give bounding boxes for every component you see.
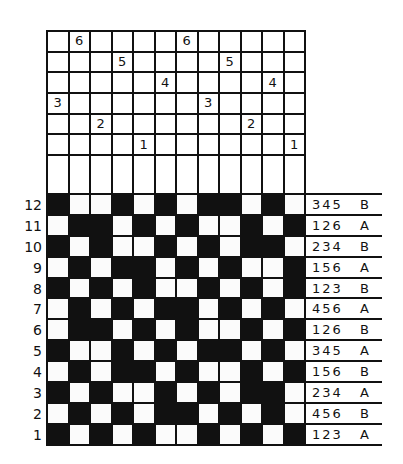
- weave-cell-black: [70, 362, 92, 383]
- weave-cell-black: [134, 258, 156, 279]
- weave-cell-white: [113, 320, 135, 341]
- weave-cell-white: [263, 258, 285, 279]
- weave-cell-white: [199, 299, 221, 320]
- weave-cell-white: [70, 195, 92, 216]
- weave-cell-black: [242, 279, 264, 300]
- weave-cell-white: [48, 216, 70, 237]
- lift-shafts: 456: [312, 299, 360, 318]
- weave-cell-white: [134, 383, 156, 404]
- threading-cell: [177, 94, 199, 115]
- weave-cell-white: [91, 362, 113, 383]
- weave-cell-black: [199, 425, 221, 446]
- threading-cell: [220, 32, 242, 53]
- threading-cell: [199, 53, 221, 74]
- threading-cell: [156, 32, 178, 53]
- lift-label: 123B: [306, 279, 382, 300]
- threading-cell: [70, 53, 92, 74]
- threading-cell: [220, 135, 242, 156]
- weave-cell-black: [70, 216, 92, 237]
- weave-cell-white: [263, 320, 285, 341]
- weave-cell-black: [242, 320, 264, 341]
- weave-cell-black: [91, 383, 113, 404]
- pick-number: 8: [14, 279, 42, 300]
- threading-cell: [285, 32, 307, 53]
- lift-label: 456B: [306, 404, 382, 425]
- weave-cell-white: [199, 404, 221, 425]
- threading-draft: 665544332211: [46, 30, 306, 196]
- weave-cell-black: [285, 320, 307, 341]
- weave-cell-black: [156, 299, 178, 320]
- weave-cell-black: [156, 383, 178, 404]
- threading-cell: 4: [156, 73, 178, 94]
- weave-cell-white: [220, 362, 242, 383]
- weave-cell-white: [91, 404, 113, 425]
- threading-cell: [220, 94, 242, 115]
- threading-cell: [242, 135, 264, 156]
- threading-cell: [285, 94, 307, 115]
- weave-cell-black: [242, 216, 264, 237]
- weave-cell-black: [285, 425, 307, 446]
- threading-spacer-cell: [199, 156, 221, 196]
- weave-cell-black: [199, 237, 221, 258]
- weave-cell-white: [70, 425, 92, 446]
- pick-number: 5: [14, 341, 42, 362]
- pick-number: 12: [14, 195, 42, 216]
- weave-cell-black: [263, 341, 285, 362]
- weave-cell-white: [177, 425, 199, 446]
- weave-cell-white: [220, 425, 242, 446]
- threading-cell: [242, 94, 264, 115]
- threading-cell: [91, 32, 113, 53]
- threading-spacer-cell: [70, 156, 92, 196]
- weave-cell-black: [242, 362, 264, 383]
- threading-cell: [285, 73, 307, 94]
- lift-shafts: 345: [312, 341, 360, 360]
- threading-cell: [48, 135, 70, 156]
- weave-cell-black: [70, 404, 92, 425]
- pick-number: 11: [14, 216, 42, 237]
- threading-cell: [113, 94, 135, 115]
- threading-cell: 6: [177, 32, 199, 53]
- treadle-letter: B: [360, 279, 380, 298]
- weave-cell-black: [177, 320, 199, 341]
- pick-number: 4: [14, 362, 42, 383]
- threading-cell: [48, 73, 70, 94]
- threading-spacer-cell: [156, 156, 178, 196]
- lift-shafts: 456: [312, 404, 360, 423]
- weave-cell-white: [48, 320, 70, 341]
- threading-cell: [199, 32, 221, 53]
- threading-cell: [263, 32, 285, 53]
- weave-cell-black: [48, 195, 70, 216]
- weave-cell-black: [113, 341, 135, 362]
- weave-cell-black: [91, 279, 113, 300]
- weave-cell-white: [285, 195, 307, 216]
- lift-shafts: 234: [312, 237, 360, 256]
- weave-cell-white: [156, 216, 178, 237]
- weave-cell-white: [177, 195, 199, 216]
- threading-cell: [113, 73, 135, 94]
- treadle-letter: B: [360, 362, 380, 381]
- lift-label: 345A: [306, 341, 382, 362]
- threading-cell: 2: [242, 115, 264, 136]
- weave-cell-black: [199, 279, 221, 300]
- weave-cell-black: [156, 195, 178, 216]
- threading-spacer-cell: [263, 156, 285, 196]
- treadle-letter: A: [360, 341, 380, 360]
- weave-cell-black: [70, 299, 92, 320]
- weave-cell-white: [220, 320, 242, 341]
- weave-cell-black: [177, 216, 199, 237]
- weave-cell-white: [113, 216, 135, 237]
- weave-cell-white: [263, 279, 285, 300]
- weave-cell-black: [70, 320, 92, 341]
- weave-cell-black: [48, 425, 70, 446]
- weave-cell-white: [48, 362, 70, 383]
- threading-cell: [263, 115, 285, 136]
- weave-cell-white: [134, 237, 156, 258]
- treadle-letter: A: [360, 299, 380, 318]
- treadle-letter: B: [360, 404, 380, 423]
- weave-cell-black: [113, 195, 135, 216]
- weave-cell-black: [70, 258, 92, 279]
- threading-cell: [242, 53, 264, 74]
- pick-number: 3: [14, 383, 42, 404]
- threading-cell: 5: [220, 53, 242, 74]
- weave-cell-black: [48, 279, 70, 300]
